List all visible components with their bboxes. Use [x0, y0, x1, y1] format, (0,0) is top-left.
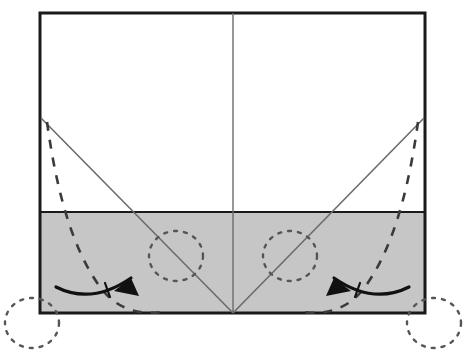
- fold-diagram-figure: [0, 0, 465, 362]
- origami-fold-diagram: [0, 0, 465, 362]
